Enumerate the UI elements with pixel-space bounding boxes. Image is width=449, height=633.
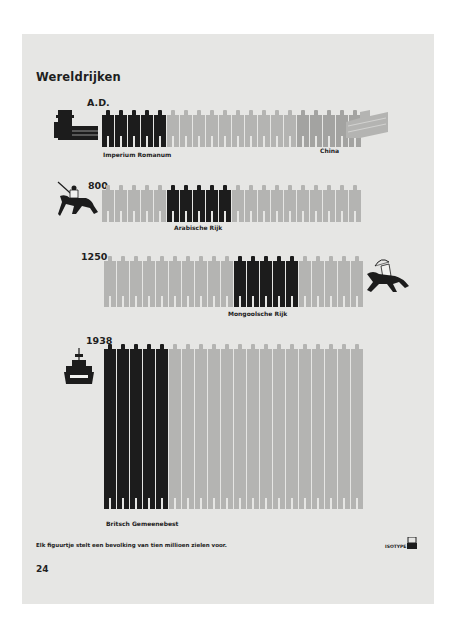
person-figure (245, 110, 257, 147)
person-figure (323, 185, 335, 222)
label-arabische-rijk: Arabische Rijk (174, 224, 222, 231)
person-figure (310, 110, 322, 147)
pictogram-row-ad (102, 110, 362, 147)
year-label-ad: A.D. (87, 97, 110, 108)
page-number: 24 (36, 564, 49, 574)
person-figure (284, 110, 296, 147)
pictogram-row-1250 (104, 256, 364, 307)
person-figure (143, 256, 155, 307)
person-figure (169, 344, 181, 509)
person-figure (208, 256, 220, 307)
person-figure (206, 110, 218, 147)
person-figure (193, 185, 205, 222)
person-figure (312, 344, 324, 509)
person-figure (247, 256, 259, 307)
person-figure (271, 110, 283, 147)
person-figure (182, 256, 194, 307)
person-figure (167, 185, 179, 222)
person-figure (258, 185, 270, 222)
mounted-archer-icon (365, 256, 413, 296)
isotype-logo-text: ISOTYPE (385, 544, 406, 549)
horseman-lancer-icon (56, 180, 102, 220)
isotype-emblem-icon (407, 537, 417, 549)
label-china: China (320, 147, 339, 154)
battleship-icon (62, 348, 96, 386)
person-figure (234, 256, 246, 307)
person-figure (273, 344, 285, 509)
person-figure (325, 344, 337, 509)
person-figure (338, 256, 350, 307)
person-figure (141, 185, 153, 222)
person-figure (232, 110, 244, 147)
person-figure (167, 110, 179, 147)
person-figure (273, 256, 285, 307)
pictogram-row-1938 (104, 344, 364, 509)
person-figure (130, 256, 142, 307)
person-figure (128, 110, 140, 147)
person-figure (156, 256, 168, 307)
person-figure (115, 185, 127, 222)
roman-gate-icon (54, 108, 98, 144)
chart-title: Wereldrijken (36, 70, 121, 84)
person-figure (169, 256, 181, 307)
person-figure (336, 185, 348, 222)
person-figure (154, 185, 166, 222)
person-figure (128, 185, 140, 222)
person-figure (284, 185, 296, 222)
person-figure (141, 110, 153, 147)
person-figure (297, 110, 309, 147)
person-figure (104, 256, 116, 307)
great-wall-icon (346, 108, 388, 142)
isotype-logo: ISOTYPE (385, 537, 417, 549)
person-figure (117, 256, 129, 307)
person-figure (195, 344, 207, 509)
person-figure (310, 185, 322, 222)
person-figure (206, 185, 218, 222)
person-figure (232, 185, 244, 222)
person-figure (115, 110, 127, 147)
person-figure (102, 185, 114, 222)
person-figure (182, 344, 194, 509)
person-figure (219, 185, 231, 222)
person-figure (102, 110, 114, 147)
pictogram-row-800 (102, 185, 362, 222)
person-figure (180, 185, 192, 222)
person-figure (143, 344, 155, 509)
person-figure (117, 344, 129, 509)
person-figure (297, 185, 309, 222)
person-figure (193, 110, 205, 147)
legend-note: Elk figuurtje stelt een bevolking van ti… (36, 542, 227, 548)
person-figure (208, 344, 220, 509)
person-figure (349, 185, 361, 222)
person-figure (104, 344, 116, 509)
person-figure (234, 344, 246, 509)
person-figure (323, 110, 335, 147)
person-figure (219, 110, 231, 147)
person-figure (154, 110, 166, 147)
label-mongoolsche-rijk: Mongoolsche Rijk (228, 310, 287, 317)
person-figure (325, 256, 337, 307)
person-figure (247, 344, 259, 509)
person-figure (286, 344, 298, 509)
person-figure (221, 256, 233, 307)
label-britsch-gemeenebest: Britsch Gemeenebest (106, 520, 178, 527)
person-figure (130, 344, 142, 509)
person-figure (258, 110, 270, 147)
person-figure (156, 344, 168, 509)
person-figure (286, 256, 298, 307)
person-figure (260, 256, 272, 307)
person-figure (195, 256, 207, 307)
person-figure (351, 344, 363, 509)
person-figure (299, 256, 311, 307)
person-figure (180, 110, 192, 147)
person-figure (312, 256, 324, 307)
person-figure (338, 344, 350, 509)
label-imperium-romanum: Imperium Romanum (103, 151, 171, 158)
person-figure (221, 344, 233, 509)
person-figure (271, 185, 283, 222)
person-figure (351, 256, 363, 307)
person-figure (299, 344, 311, 509)
person-figure (245, 185, 257, 222)
person-figure (260, 344, 272, 509)
